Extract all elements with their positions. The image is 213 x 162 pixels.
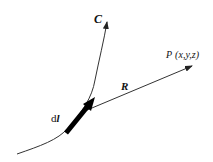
biot-savart-diagram: C R dl P(x,y,z)	[0, 0, 213, 162]
curve-c	[17, 22, 107, 154]
dl-label: dl	[51, 112, 61, 124]
vector-r-label: R	[120, 80, 128, 92]
point-p-label: P(x,y,z)	[165, 49, 200, 61]
curve-label: C	[94, 12, 103, 26]
current-element-dl-arrow	[66, 97, 95, 133]
